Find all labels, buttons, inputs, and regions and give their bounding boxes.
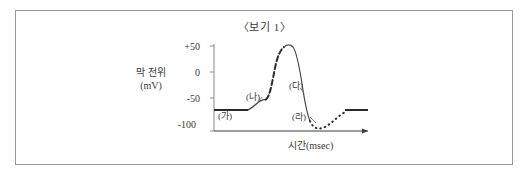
figure-page: 〈보기 1〉 +50 0 -50 -100 막 전위 (mV) 시간(msec)… (0, 0, 529, 176)
curve-segment-ra (310, 111, 347, 129)
figure-title: 〈보기 1〉 (0, 18, 529, 34)
action-potential-chart: +50 0 -50 -100 막 전위 (mV) 시간(msec) (가) (나… (140, 38, 390, 153)
curve-segment-na (266, 47, 284, 100)
chart-svg (140, 38, 390, 153)
curve-segment-da (284, 45, 310, 121)
curve-segment-threshold-rise (248, 100, 266, 111)
